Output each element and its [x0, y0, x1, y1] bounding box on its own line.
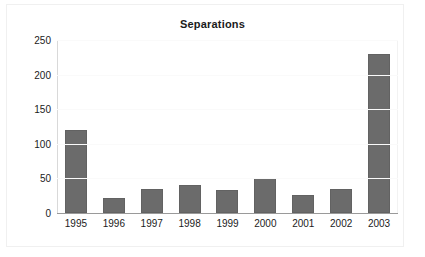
y-axis-tick-label: 0 [5, 208, 51, 219]
x-axis-tick-label: 1997 [141, 218, 163, 229]
x-axis-tick-label: 2001 [292, 218, 314, 229]
bar[interactable] [141, 189, 163, 213]
x-axis-tick-label: 2000 [254, 218, 276, 229]
bar-slot [284, 40, 322, 213]
bar-slot [133, 40, 171, 213]
chart-title: Separations [0, 18, 425, 30]
bar[interactable] [179, 185, 201, 213]
gridline [57, 40, 398, 41]
gridline [57, 109, 398, 110]
bar[interactable] [330, 189, 352, 213]
y-axis-tick-label: 150 [5, 104, 51, 115]
bar[interactable] [65, 130, 87, 213]
x-axis-line [57, 213, 398, 214]
bar[interactable] [254, 178, 276, 213]
y-axis-tick-label: 100 [5, 138, 51, 149]
bars-layer [57, 40, 398, 213]
y-axis-tick-label: 50 [5, 173, 51, 184]
y-axis-tick-label: 250 [5, 35, 51, 46]
bar[interactable] [368, 54, 390, 213]
bar[interactable] [103, 198, 125, 213]
x-axis-tick-label: 1995 [65, 218, 87, 229]
x-axis-tick-label: 1998 [178, 218, 200, 229]
gridline [57, 75, 398, 76]
y-axis-tick-label: 200 [5, 69, 51, 80]
x-axis-tick-label: 1996 [103, 218, 125, 229]
bar-slot [171, 40, 209, 213]
bar-slot [360, 40, 398, 213]
x-axis: 199519961997199819992000200120022003 [57, 218, 398, 236]
gridline [57, 144, 398, 145]
bar-slot [57, 40, 95, 213]
bar-slot [209, 40, 247, 213]
gridline [57, 178, 398, 179]
bar-slot [322, 40, 360, 213]
x-axis-tick-label: 2002 [330, 218, 352, 229]
x-axis-tick-label: 2003 [368, 218, 390, 229]
chart-container: Separations 050100150200250 199519961997… [0, 0, 425, 257]
x-axis-tick-label: 1999 [216, 218, 238, 229]
bar[interactable] [292, 195, 314, 213]
bar-slot [246, 40, 284, 213]
bar[interactable] [216, 190, 238, 213]
y-axis: 050100150200250 [0, 0, 51, 257]
bar-slot [95, 40, 133, 213]
